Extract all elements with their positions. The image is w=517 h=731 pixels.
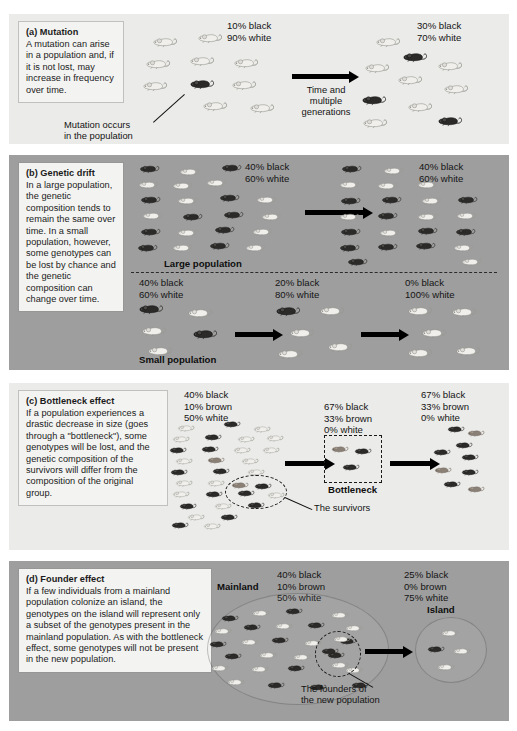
mouse-white [256, 195, 277, 206]
stats-small-gen2: 20% black 80% white [275, 277, 319, 300]
mouse-white [241, 638, 259, 647]
mouse-white [327, 341, 353, 354]
mouse-white [407, 305, 433, 318]
mouse-black [221, 163, 242, 174]
mouse-white [345, 624, 363, 633]
panel-bottleneck-effect: (c) Bottleneck effect If a population ex… [9, 383, 509, 550]
mouse-black [212, 467, 230, 476]
mouse-black [275, 305, 301, 318]
mouse-white [145, 58, 171, 71]
mouse-black [201, 445, 219, 454]
panel-genetic-drift: (b) Genetic drift In a large population,… [9, 155, 509, 370]
mouse-white [339, 212, 360, 223]
mouse-black [339, 243, 360, 254]
mouse-white [233, 57, 259, 70]
mouse-black [209, 241, 230, 252]
mouse-white [187, 513, 205, 522]
mouse-white [397, 74, 423, 87]
mouse-white [275, 622, 293, 631]
mouse-brown [434, 466, 452, 475]
mouse-white [189, 55, 215, 68]
mouse-black [214, 225, 235, 236]
mouse-black [170, 468, 188, 477]
mouse-black [461, 453, 479, 462]
mouse-black [402, 51, 428, 64]
caption-title-c: (c) Bottleneck effect [26, 396, 160, 407]
mouse-black [341, 164, 362, 175]
mouse-white [177, 196, 198, 207]
mouse-black-founder [321, 647, 339, 656]
mouse-white [245, 243, 266, 254]
mouse-white [177, 424, 195, 433]
mouse-black [140, 227, 161, 238]
mouse-white-founder [333, 635, 351, 644]
mouse-black [340, 227, 361, 238]
mouse-white [383, 166, 404, 177]
caption-body-b: In a large population, the genetic compo… [26, 180, 116, 304]
mouse-white [179, 167, 200, 178]
stats-small-gen1: 40% black 60% white [139, 277, 183, 300]
caption-body-d: If a few individuals from a mainland pop… [26, 586, 203, 664]
mouse-black [140, 195, 161, 206]
mouse-white [233, 446, 251, 455]
leader-line-survivors [285, 497, 313, 510]
panel-mutation: (a) Mutation A mutation can arise in a p… [9, 14, 509, 144]
mouse-black [267, 681, 285, 690]
mouse-black [169, 446, 187, 455]
mouse-white [379, 228, 400, 239]
mouse-white [142, 80, 168, 93]
mouse-white [206, 178, 227, 189]
mouse-brown [207, 456, 225, 465]
caption-title-a: (a) Mutation [26, 27, 116, 38]
mouse-white [138, 180, 159, 191]
mouse-black [137, 243, 158, 254]
mouse-white [377, 181, 398, 192]
mouse-white [339, 180, 360, 191]
mouse-white [441, 629, 459, 638]
mouse-white [172, 181, 193, 192]
leader-line-mutation [153, 94, 185, 123]
mouse-black [223, 210, 244, 221]
mouse-white [227, 678, 245, 687]
caption-body-a: A mutation can arise in a population and… [26, 39, 114, 95]
mouse-white [364, 62, 390, 75]
island-landmass [415, 617, 487, 683]
mouse-white-founder [331, 661, 349, 670]
mouse-white [172, 490, 190, 499]
mouse-white [437, 663, 455, 672]
mouse-white [142, 211, 163, 222]
stats-island: 25% black 0% brown 75% white [404, 569, 448, 604]
caption-body-c: If a population experiences a drastic de… [26, 408, 150, 498]
mouse-black [219, 193, 240, 204]
mouse-black [361, 94, 387, 107]
mouse-white [231, 79, 257, 92]
mouse-white [262, 446, 280, 455]
mouse-white [362, 117, 388, 130]
divider-large-small [131, 272, 497, 273]
mouse-white [203, 522, 221, 531]
mouse-white [261, 212, 282, 223]
mouse-white [437, 60, 463, 73]
mouse-white [375, 36, 401, 49]
stats-bottleneck-original: 40% black 10% brown 50% white [184, 389, 232, 424]
mouse-white [211, 664, 229, 673]
mouse-black [340, 196, 361, 207]
mouse-black [342, 463, 360, 472]
mouse-white [175, 457, 193, 466]
mouse-black [455, 227, 476, 238]
mouse-black [139, 164, 160, 175]
mouse-white [421, 327, 447, 340]
mouse-white [461, 257, 482, 268]
mouse-white [202, 100, 228, 113]
caption-bottleneck: (c) Bottleneck effect If a population ex… [19, 391, 167, 505]
panel-founder-effect: (d) Founder effect If a few individuals … [9, 561, 509, 721]
mouse-black [461, 468, 479, 477]
stats-small-gen3: 0% black 100% white [405, 277, 455, 300]
mouse-white [453, 647, 471, 656]
mouse-black [457, 195, 478, 206]
mouse-black [287, 664, 305, 673]
mouse-black [223, 420, 241, 429]
mouse-brown [467, 429, 485, 438]
mouse-white [141, 325, 167, 338]
microevolution-figure: (a) Mutation A mutation can arise in a p… [0, 0, 517, 731]
